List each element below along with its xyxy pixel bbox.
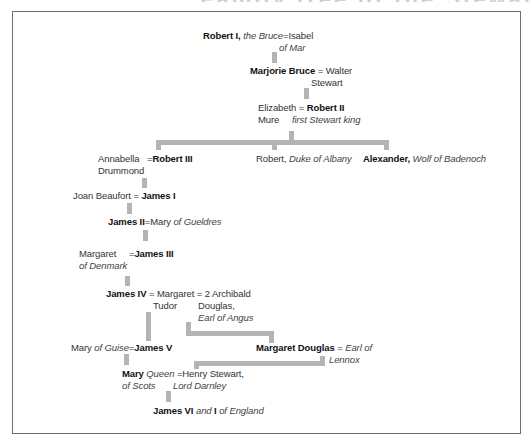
node-robert3: Annabella =Robert III [98,153,193,165]
node-james4-spouse2-line2: Douglas, [198,300,235,312]
node-james3: Margaret =James III [79,248,174,260]
node-mary-spouse-line2: Lord Darnley [173,380,226,392]
person-name: Alexander, [363,153,410,164]
epithet: Wolf of Badenoch [413,153,486,164]
person-name: Robert III [152,153,192,164]
node-james3-spouse-line2: of Denmark [79,260,127,272]
spouse-name: Mary [150,216,171,227]
spouse-title: Lord Darnley [173,380,226,391]
spouse-title: of Mar [279,42,305,53]
node-james5: Mary of Guise=James V [71,342,172,354]
spouse-name: Elizabeth [258,102,296,113]
epithet: Queen [146,368,174,379]
node-james4-spouse2-line3: Earl of Angus [198,312,253,324]
spouse-title: of Gueldres [173,216,221,227]
node-james2: James II=Mary of Gueldres [108,216,221,228]
connector-marjorie-robert2 [304,88,309,99]
second-spouse-name: Archibald [212,288,251,299]
connector-james5-mary [124,354,129,365]
epithet: of England [219,405,263,416]
epithet: of Scots [122,380,156,391]
connector-lennox-tick [320,356,325,366]
epithet: first Stewart king [292,114,360,125]
marriage-sign: = [318,65,323,76]
node-robert2: Elizabeth = Robert II [258,102,344,114]
node-albany: Robert, Duke of Albany [256,153,352,165]
connector-james1-james2 [127,203,132,214]
spouse-name: Joan Beaufort [73,190,131,201]
node-alexander: Alexander, Wolf of Badenoch [363,153,486,165]
node-robert3-spouse-line2: Drummond [98,165,144,177]
spouse-title: of Guise [94,342,129,353]
marriage-sign: = [337,342,342,353]
spouse-name: Walter [326,65,353,76]
person-name: Marjorie Bruce [250,65,315,76]
spouse-name: Henry Stewart, [182,368,243,379]
spouse-name: Earl of [345,342,372,353]
person-name: James I [141,190,175,201]
connector-mary-james6 [166,391,171,402]
node-robert2-epithet: first Stewart king [292,114,360,126]
node-james6: James VI and I of England [153,405,264,417]
marriage-sign: = [133,190,138,201]
connector-robert3-james1 [142,178,147,188]
connector-angus-horizontal [186,331,274,336]
spouse-title: Earl of Angus [198,312,253,323]
person-name: James V [134,342,172,353]
person-name: James VI [153,405,193,416]
connector-james2-james3 [143,230,148,241]
person-name-2: I [214,405,217,416]
person-name: Margaret Douglas [256,342,335,353]
epithet: the Bruce [243,30,283,41]
node-margaret-douglas: Margaret Douglas = Earl of [256,342,372,354]
spouse-name: Annabella [98,153,139,164]
spouse-name: Margaret [157,288,194,299]
node-marjorie-spouse-line2: Stewart [311,77,343,89]
connector-to-robert3 [156,140,161,150]
person-name: Robert II [307,102,345,113]
node-james1: Joan Beaufort = James I [73,190,176,202]
person-name: James III [134,248,173,259]
node-margaret-douglas-spouse-line2: Lennox [329,354,360,366]
second-marriage-sign: = 2 [197,288,210,299]
node-mary: Mary Queen =Henry Stewart, [122,368,244,380]
cut-off-heading: Family tree of the Stewart kings of Scot… [200,0,529,2]
marriage-sign: = [299,102,304,113]
node-james4: James IV = Margaret = 2 Archibald [106,288,251,300]
person-name: James IV [106,288,146,299]
person-name: Mary [122,368,144,379]
node-robert2-spouse-line2: Mure [258,114,279,126]
person-name: James II [108,216,145,227]
node-robert1-spouse-line2: of Mar [279,42,305,54]
conjunction: and [196,405,212,416]
spouse-name: Margaret [79,248,116,259]
node-james4-spouse-line2: Tudor [153,300,177,312]
connector-james3-james4 [125,276,130,286]
spouse-name: Mary [71,342,92,353]
person-name: Robert I, [203,30,241,41]
node-marjorie: Marjorie Bruce = Walter [250,65,352,77]
connector-to-albany [272,140,277,150]
marriage-sign: = [149,288,154,299]
spouse-name: Isabel [288,30,313,41]
spouse-title: Lennox [329,354,360,365]
person-name: Robert, [256,153,286,164]
connector-james4-james5 [146,312,151,341]
connector-robert1-marjorie [272,52,277,63]
spouse-title: of Denmark [79,260,127,271]
node-robert1: Robert I, the Bruce=Isabel [203,30,313,42]
epithet: Duke of Albany [289,153,352,164]
connector-lennox-horizontal [194,361,325,366]
node-mary-epithet-line2: of Scots [122,380,156,392]
connector-to-alexander [384,140,389,150]
